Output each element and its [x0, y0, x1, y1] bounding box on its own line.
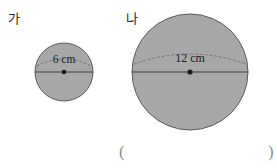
circle-na-center-dot — [187, 69, 192, 74]
circle-na-group — [132, 14, 248, 130]
circle-ga-center-dot — [62, 70, 67, 75]
geometry-figure-container: 가 나 6 cm 12 cm ( ) — [0, 0, 277, 168]
answer-open-paren: ( — [119, 143, 125, 160]
circle-ga-measure-label: 6 cm — [35, 54, 93, 66]
circle-ga-label: 가 — [8, 12, 20, 25]
circle-ga-group — [35, 43, 93, 101]
circles-diagram — [0, 0, 277, 168]
circle-na-label: 나 — [126, 12, 138, 25]
answer-close-paren: ) — [268, 143, 274, 160]
circle-na-measure-label: 12 cm — [150, 52, 230, 64]
